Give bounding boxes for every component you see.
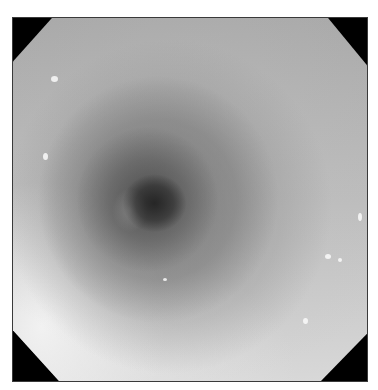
endoscopy-image-frame (13, 18, 367, 381)
reflection-highlight (51, 76, 58, 82)
reflection-highlight (43, 153, 48, 160)
reflection-highlight (163, 278, 167, 281)
reflection-highlight (338, 258, 342, 262)
reflection-highlight (325, 254, 331, 259)
endoscopic-lumen-view (13, 18, 367, 381)
reflection-highlight (358, 213, 362, 221)
reflection-highlight (303, 318, 308, 324)
